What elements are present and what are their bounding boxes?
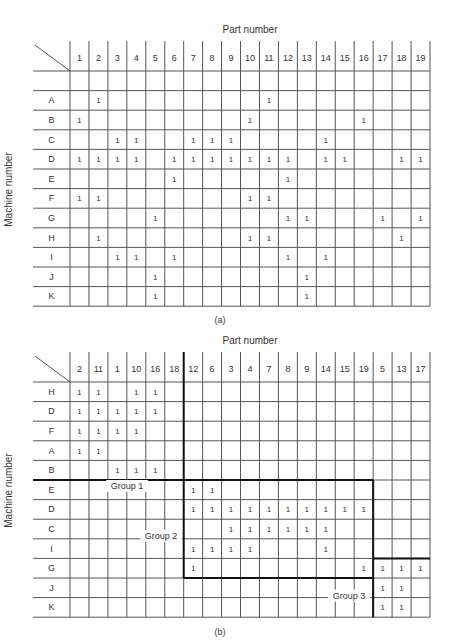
matrix-cell-mark: 1 xyxy=(380,584,385,593)
matrix-cell-mark: 1 xyxy=(248,545,253,554)
matrix-cell-mark: 1 xyxy=(324,505,329,514)
matrix-cell-mark: 1 xyxy=(96,407,101,416)
group-1-label: Group 1 xyxy=(111,481,144,491)
row-label-machine: K xyxy=(48,602,54,612)
group-2-label: Group 2 xyxy=(145,531,178,541)
matrix-cell-mark: 1 xyxy=(267,505,272,514)
matrix-cell-mark: 1 xyxy=(115,427,120,436)
group-3-label: Group 3 xyxy=(333,591,366,601)
matrix-cell-mark: 1 xyxy=(361,564,366,573)
column-header: 9 xyxy=(304,364,309,374)
matrix-cell-mark: 1 xyxy=(286,525,291,534)
matrix-cell-mark: 1 xyxy=(399,603,404,612)
matrix-cell-mark: 1 xyxy=(134,466,139,475)
column-header: 2 xyxy=(77,364,82,374)
column-header: 15 xyxy=(340,364,350,374)
row-label-machine: I xyxy=(50,544,53,554)
matrix-cell-mark: 1 xyxy=(229,505,234,514)
matrix-cell-mark: 1 xyxy=(267,525,272,534)
matrix-cell-mark: 1 xyxy=(248,505,253,514)
matrix-cell-mark: 1 xyxy=(134,407,139,416)
column-header: 3 xyxy=(229,364,234,374)
row-label-machine: D xyxy=(48,406,55,416)
matrix-cell-mark: 1 xyxy=(96,388,101,397)
matrix-cell-mark: 1 xyxy=(418,564,423,573)
matrix-cell-mark: 1 xyxy=(305,525,310,534)
matrix-cell-mark: 1 xyxy=(324,545,329,554)
column-header: 6 xyxy=(210,364,215,374)
column-header: 18 xyxy=(169,364,179,374)
column-header: 8 xyxy=(285,364,290,374)
matrix-cell-mark: 1 xyxy=(380,603,385,612)
matrix-cell-mark: 1 xyxy=(191,486,196,495)
column-header: 13 xyxy=(397,364,407,374)
row-label-machine: A xyxy=(48,446,54,456)
figure-b-caption: (b) xyxy=(200,627,240,637)
matrix-cell-mark: 1 xyxy=(191,505,196,514)
matrix-cell-mark: 1 xyxy=(96,427,101,436)
matrix-cell-mark: 1 xyxy=(134,388,139,397)
column-header: 5 xyxy=(380,364,385,374)
matrix-cell-mark: 1 xyxy=(191,564,196,573)
matrix-cell-mark: 1 xyxy=(134,427,139,436)
column-header: 16 xyxy=(150,364,160,374)
matrix-cell-mark: 1 xyxy=(191,545,196,554)
row-label-machine: D xyxy=(48,504,55,514)
matrix-cell-mark: 1 xyxy=(96,447,101,456)
matrix-cell-mark: 1 xyxy=(115,407,120,416)
figure-b-matrix-grouped: 21111016181263478914151951317H1111D11111… xyxy=(0,0,451,643)
matrix-cell-mark: 1 xyxy=(229,545,234,554)
matrix-cell-mark: 1 xyxy=(305,505,310,514)
row-label-machine: B xyxy=(48,465,54,475)
matrix-cell-mark: 1 xyxy=(210,545,215,554)
column-header: 17 xyxy=(416,364,426,374)
matrix-cell-mark: 1 xyxy=(286,505,291,514)
row-label-machine: C xyxy=(48,524,55,534)
row-label-machine: E xyxy=(48,485,54,495)
matrix-cell-mark: 1 xyxy=(324,525,329,534)
column-header: 11 xyxy=(94,364,103,374)
column-header: 1 xyxy=(115,364,120,374)
matrix-cell-mark: 1 xyxy=(77,388,82,397)
row-label-machine: F xyxy=(49,426,55,436)
matrix-cell-mark: 1 xyxy=(399,564,404,573)
matrix-cell-mark: 1 xyxy=(399,584,404,593)
matrix-cell-mark: 1 xyxy=(77,407,82,416)
row-label-machine: H xyxy=(48,387,55,397)
column-header: 7 xyxy=(266,364,271,374)
matrix-cell-mark: 1 xyxy=(361,505,366,514)
row-label-machine: G xyxy=(48,563,55,573)
matrix-cell-mark: 1 xyxy=(153,466,158,475)
matrix-cell-mark: 1 xyxy=(115,466,120,475)
column-header: 19 xyxy=(359,364,369,374)
matrix-cell-mark: 1 xyxy=(77,427,82,436)
matrix-cell-mark: 1 xyxy=(153,388,158,397)
matrix-cell-mark: 1 xyxy=(210,505,215,514)
column-header: 12 xyxy=(188,364,198,374)
column-header: 14 xyxy=(321,364,331,374)
matrix-cell-mark: 1 xyxy=(229,525,234,534)
row-label-machine: J xyxy=(49,583,54,593)
matrix-cell-mark: 1 xyxy=(153,407,158,416)
matrix-cell-mark: 1 xyxy=(343,505,348,514)
column-header: 10 xyxy=(131,364,141,374)
column-header: 4 xyxy=(247,364,252,374)
matrix-cell-mark: 1 xyxy=(210,486,215,495)
matrix-cell-mark: 1 xyxy=(77,447,82,456)
matrix-cell-mark: 1 xyxy=(380,564,385,573)
matrix-cell-mark: 1 xyxy=(248,525,253,534)
